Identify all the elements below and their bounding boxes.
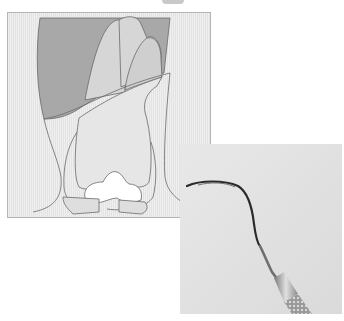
bone-block-right bbox=[119, 200, 147, 214]
instrument-photo bbox=[180, 144, 342, 314]
photo-background bbox=[180, 144, 342, 314]
top-gray-shape bbox=[162, 0, 184, 4]
